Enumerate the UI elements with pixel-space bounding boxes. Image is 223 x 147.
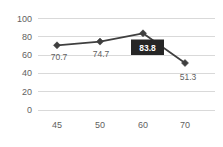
y-axis-tick-20: 20	[22, 87, 32, 97]
data-label-70: 51.3	[180, 72, 197, 82]
chart-plot-area: 100 80 60 40 20 0 70.7 74.7 51.3 83.8 45…	[0, 0, 223, 147]
x-axis-tick-50: 50	[95, 120, 105, 130]
y-axis-tick-40: 40	[22, 68, 32, 78]
y-axis-tick-100: 100	[17, 14, 32, 24]
x-axis-tick-70: 70	[180, 120, 190, 130]
x-axis-tick-45: 45	[52, 120, 62, 130]
y-axis-tick-60: 60	[22, 50, 32, 60]
x-axis-tick-60: 60	[138, 120, 148, 130]
y-axis-tick-0: 0	[27, 105, 32, 115]
series-line	[57, 33, 185, 63]
line-chart: 100 80 60 40 20 0 70.7 74.7 51.3 83.8 45…	[0, 0, 223, 147]
highlighted-data-label-text: 83.8	[139, 43, 156, 53]
data-point-marker-45	[54, 42, 61, 49]
y-axis-tick-80: 80	[22, 32, 32, 42]
data-label-50: 74.7	[93, 49, 110, 59]
data-label-45: 70.7	[51, 52, 68, 62]
data-point-marker-50	[97, 38, 104, 45]
